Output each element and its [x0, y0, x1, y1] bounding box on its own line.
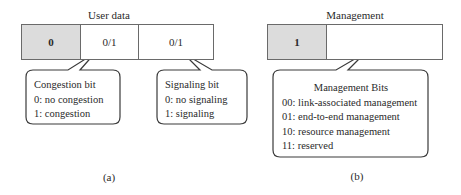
signaling-callout: Signaling bit 0: no signaling 1: signali… [157, 72, 247, 128]
panel-a-caption: (a) [89, 171, 129, 183]
management-callout: Management Bits 00: link-associated mana… [273, 75, 428, 160]
user-data-cell-signaling: 0/1 [139, 25, 213, 59]
congestion-callout-line: 1: congestion [34, 107, 112, 122]
congestion-callout-heading: Congestion bit [34, 78, 112, 93]
management-callout-heading: Management Bits [282, 81, 420, 96]
signaling-callout-heading: Signaling bit [165, 78, 239, 93]
user-data-cell-type: 0 [22, 25, 81, 59]
congestion-callout-line: 0: no congestion [34, 93, 112, 108]
panel-b-caption: (b) [337, 170, 377, 182]
user-data-cell-bar: 0 0/1 0/1 [21, 24, 214, 60]
management-callout-line: 11: reserved [282, 139, 420, 154]
congestion-callout: Congestion bit 0: no congestion 1: conge… [26, 72, 120, 128]
user-data-cell-congestion: 0/1 [81, 25, 139, 59]
management-cell-bar: 1 [267, 24, 443, 60]
management-callout-line: 00: link-associated management [282, 96, 420, 111]
management-cell-bits [327, 25, 442, 59]
signaling-callout-line: 0: no signaling [165, 93, 239, 108]
management-title: Management [305, 9, 405, 21]
signaling-callout-line: 1: signaling [165, 107, 239, 122]
management-cell-type: 1 [268, 25, 327, 59]
management-callout-line: 01: end-to-end management [282, 110, 420, 125]
user-data-title: User data [59, 9, 159, 21]
management-callout-line: 10: resource management [282, 125, 420, 140]
